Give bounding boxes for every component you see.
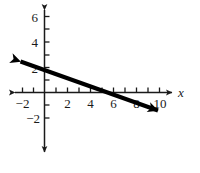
x-tick-label-6: 6: [110, 96, 117, 111]
y-tick-label-6: 6: [32, 10, 39, 25]
x-tick-label-neg2: −2: [16, 96, 30, 111]
x-tick-label-2: 2: [64, 96, 71, 111]
y-axis: 6 4 2 −2: [26, 10, 49, 153]
y-tick-label-4: 4: [32, 35, 39, 50]
x-axis-label: x: [177, 85, 184, 100]
x-tick-label-4: 4: [87, 96, 94, 111]
graph-screenshot: −2 2 4 6 8 10 x 6 4 2 −2: [0, 0, 200, 173]
y-tick-label-neg2: −2: [26, 111, 40, 126]
coordinate-plane-figure: −2 2 4 6 8 10 x 6 4 2 −2: [0, 0, 200, 173]
